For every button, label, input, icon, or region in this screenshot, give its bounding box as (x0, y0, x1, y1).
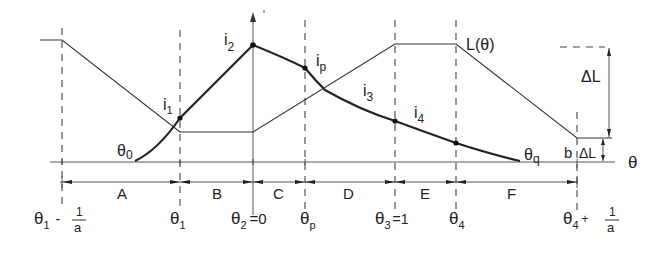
delta-l-markers: ΔL b ΔL (564, 48, 611, 161)
label-i2: i2 (224, 31, 235, 54)
delta-l-lower-prefix: b (564, 144, 572, 161)
region-label-d: D (343, 185, 354, 202)
region-label-a: A (117, 185, 127, 202)
arrow-icon (607, 129, 611, 137)
tick-label-theta4: θ4 (449, 209, 465, 231)
delta-l-upper-label: ΔL (581, 68, 601, 85)
l-theta-curve (40, 40, 612, 138)
i-axis (250, 10, 264, 215)
l-theta-label: L(θ) (466, 36, 494, 53)
tick-label-theta1-minus-inv-a: θ1- (34, 209, 61, 231)
arrow-icon (607, 48, 611, 56)
arrow-icon (601, 139, 605, 145)
arrow-icon (601, 155, 605, 161)
i-axis-arrow-icon (250, 12, 256, 22)
delta-l-lower-label: ΔL (579, 145, 596, 161)
tick-label-theta4-plus-inv-a: θ4+ (563, 209, 589, 231)
point-i2 (250, 42, 256, 48)
region-label-b: B (212, 185, 222, 202)
tick-labels: θ1- 1 a θ1 θ2=0 θp θ3=1 θ4 θ4+ 1 a (34, 205, 619, 235)
label-thetaq: θq (524, 146, 540, 166)
fraction-numerator: 1 (609, 205, 616, 219)
fraction-denominator: a (607, 220, 615, 235)
i-theta-curve (135, 45, 520, 161)
fraction-numerator: 1 (76, 205, 83, 219)
theta-axis-label: θ (628, 153, 637, 172)
tick-label-thetap: θp (300, 209, 316, 231)
point-ip (302, 65, 307, 70)
tick-label-theta3: θ3=1 (375, 209, 409, 231)
fraction-denominator: a (74, 220, 82, 235)
point-i3 (392, 118, 397, 123)
label-i4: i4 (414, 104, 425, 126)
region-label-c: C (273, 185, 284, 202)
region-dimension-line: A B C D E F (60, 176, 578, 202)
region-label-f: F (507, 185, 516, 202)
point-i4 (453, 140, 458, 145)
label-theta0: θ0 (117, 142, 133, 162)
tick-label-theta1: θ1 (170, 209, 186, 231)
guide-lines (62, 20, 605, 210)
label-i3: i3 (363, 82, 374, 104)
diagram-canvas: θ A B C D E F L(θ) (0, 0, 659, 259)
tick-label-theta2: θ2=0 (231, 209, 267, 231)
point-i1 (177, 115, 182, 120)
label-ip: ip (316, 52, 327, 74)
region-label-e: E (420, 185, 430, 202)
theta-axis: θ (50, 153, 637, 172)
label-i1: i1 (163, 96, 173, 116)
